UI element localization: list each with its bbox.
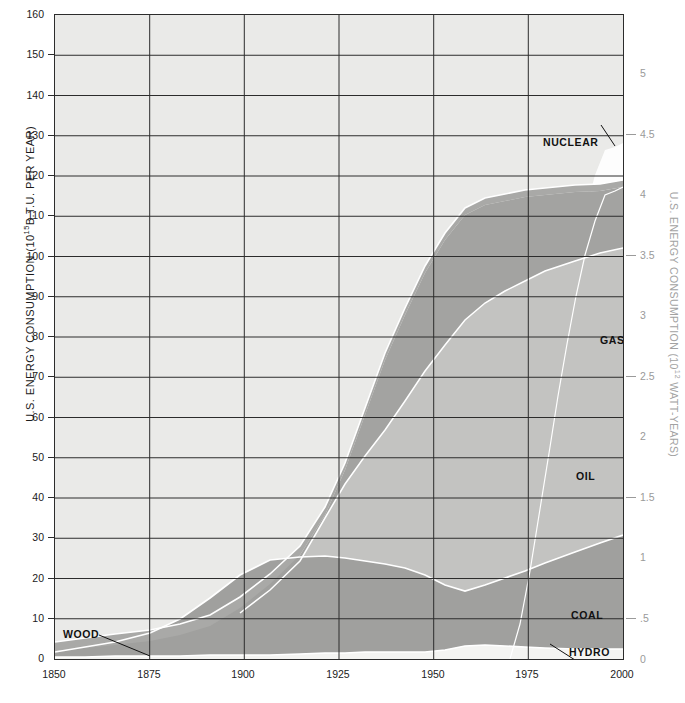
left-tickmark-50	[48, 457, 54, 458]
right-tick-1: 1	[640, 551, 680, 563]
right-tick-0p5: .5	[640, 612, 680, 624]
left-tick-120: 120	[0, 169, 44, 181]
left-tick-0: 0	[0, 652, 44, 664]
left-axis-title-exponent: 15	[22, 225, 31, 234]
left-tick-130: 130	[0, 129, 44, 141]
right-axis-title-pre: U.S. ENERGY CONSUMPTION (10	[668, 192, 680, 370]
right-tick-0: 0	[640, 653, 680, 665]
band-label-nuclear: NUCLEAR	[543, 136, 599, 148]
bottom-tick-1875: 1875	[119, 668, 179, 680]
left-tick-150: 150	[0, 48, 44, 60]
right-axis-title-post: WATT-YEARS)	[668, 379, 680, 457]
right-tick-4p5: 4.5	[640, 128, 680, 140]
band-label-coal: COAL	[571, 609, 603, 621]
bottom-tick-1950: 1950	[403, 668, 463, 680]
right-axis-title: U.S. ENERGY CONSUMPTION (1012 WATT-YEARS…	[668, 192, 682, 422]
band-label-hydro: HYDRO	[569, 646, 610, 658]
bottom-tick-1850: 1850	[24, 668, 84, 680]
bottom-tick-1900: 1900	[213, 668, 273, 680]
left-tickmark-120	[48, 175, 54, 176]
right-tick-5: 5	[640, 67, 680, 79]
right-tickmark-4p5	[626, 134, 636, 135]
plot-area: NUCLEAR GAS OIL COAL HYDRO WOOD	[54, 14, 624, 660]
right-tickmark-1p5	[626, 497, 636, 498]
left-tickmark-100	[48, 256, 54, 257]
bottom-tick-2000: 2000	[592, 668, 652, 680]
left-tickmark-20	[48, 578, 54, 579]
left-tickmark-10	[48, 618, 54, 619]
left-tickmark-130	[48, 135, 54, 136]
left-tickmark-140	[48, 95, 54, 96]
bottom-tick-1975: 1975	[497, 668, 557, 680]
band-label-gas: GAS	[600, 334, 624, 346]
energy-consumption-chart: NUCLEAR GAS OIL COAL HYDRO WOOD 160 150 …	[0, 0, 685, 703]
left-tick-30: 30	[0, 531, 44, 543]
right-tickmark-2p5	[626, 376, 636, 377]
bottom-tick-1925: 1925	[308, 668, 368, 680]
left-tickmark-90	[48, 296, 54, 297]
left-tickmark-150	[48, 54, 54, 55]
right-tickmark-3p5	[626, 255, 636, 256]
left-tick-140: 140	[0, 89, 44, 101]
band-label-oil: OIL	[576, 470, 595, 482]
right-tick-1p5: 1.5	[640, 491, 680, 503]
right-tickmark-0p5	[626, 618, 636, 619]
left-tickmark-70	[48, 376, 54, 377]
left-axis-title: U.S. ENERGY CONSUMPTION (1015B.T.U. PER …	[22, 192, 36, 422]
left-tick-10: 10	[0, 612, 44, 624]
left-tickmark-30	[48, 537, 54, 538]
right-axis-title-exponent: 12	[673, 370, 682, 379]
left-tickmark-80	[48, 336, 54, 337]
left-tickmark-110	[48, 215, 54, 216]
left-tickmark-60	[48, 417, 54, 418]
left-tick-40: 40	[0, 491, 44, 503]
left-tick-50: 50	[0, 451, 44, 463]
left-tick-160: 160	[0, 8, 44, 20]
left-axis-title-pre: U.S. ENERGY CONSUMPTION (10	[24, 234, 36, 421]
left-tickmark-40	[48, 497, 54, 498]
band-label-wood: WOOD	[63, 628, 99, 640]
left-tick-20: 20	[0, 572, 44, 584]
stacked-area-svg	[55, 15, 623, 659]
left-axis-title-post: B.T.U. PER YEAR)	[24, 126, 36, 225]
